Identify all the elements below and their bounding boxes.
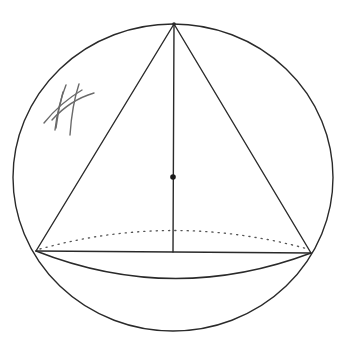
cone-base-front-arc: [36, 251, 311, 279]
apex-point: [172, 22, 176, 26]
cone-left-slant: [36, 24, 174, 251]
scribble-mark: [44, 84, 94, 135]
cone-base-back-arc: [40, 231, 308, 250]
cone-in-sphere-diagram: [0, 0, 353, 338]
cone-right-slant: [174, 24, 311, 253]
cone-axis: [173, 24, 174, 252]
sphere-center-point: [170, 174, 176, 180]
